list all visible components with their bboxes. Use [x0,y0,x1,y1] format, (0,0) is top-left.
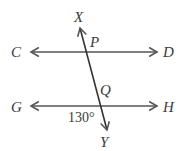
label-d: D [162,44,174,60]
label-q: Q [100,82,111,98]
label-y: Y [100,134,110,150]
label-h: H [162,99,175,115]
label-c: C [11,44,22,60]
parallel-lines-diagram: X P C D Q G H 130° Y [0,0,180,151]
angle-label: 130° [68,110,95,125]
label-p: P [89,34,99,50]
label-g: G [11,99,22,115]
label-x: X [73,9,84,25]
